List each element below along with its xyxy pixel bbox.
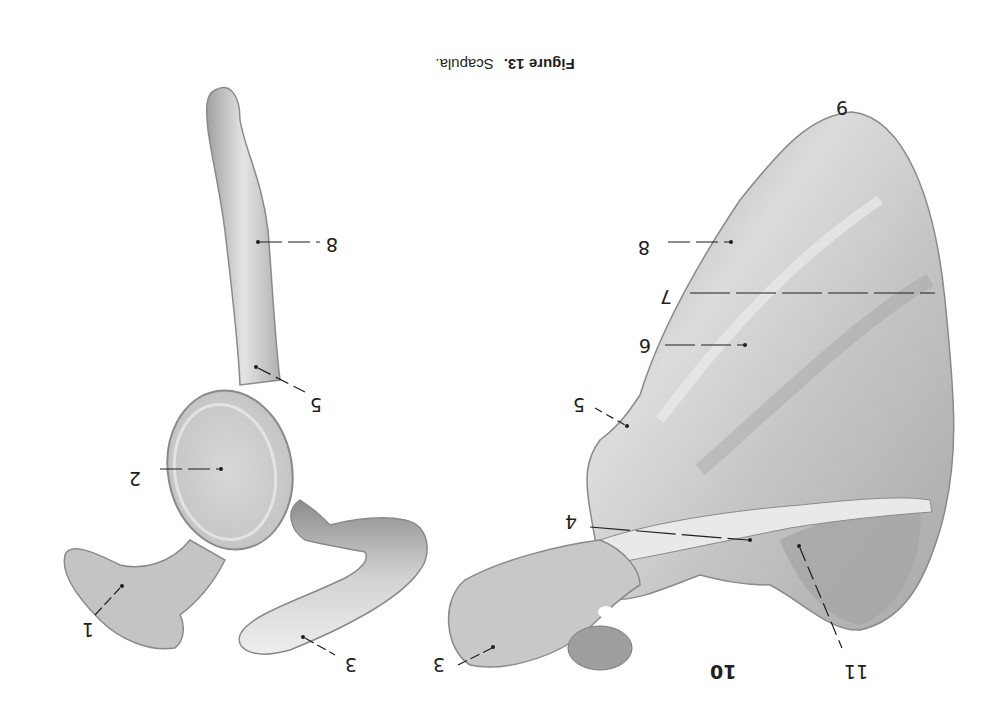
glenoid-cavity [155,380,305,559]
label-left-2: 2 [129,469,141,488]
figure-number: Figure 13. [504,56,575,73]
lateral-border [207,88,280,385]
scapula-illustration [0,0,1007,724]
label-left-1: 1 [82,620,94,639]
label-right-7: 7 [660,287,672,306]
figure-title: Scapula. [435,56,493,73]
label-right-4: 4 [565,512,577,531]
label-right-11: 11 [844,662,868,681]
label-left-5: 5 [310,395,322,414]
label-right-8: 8 [638,238,650,257]
label-right-6: 6 [639,336,651,355]
label-right-9: 9 [836,98,848,117]
label-right-10: 10 [710,662,736,681]
label-right-3: 3 [433,655,445,674]
scapula-lateral-view [64,88,427,654]
coracoid-process [568,626,632,670]
label-right-5: 5 [573,395,585,414]
label-left-3: 3 [345,655,357,674]
figure-stage: Figure 13.Scapula. 9 8 7 6 5 4 3 10 11 8… [0,0,1007,724]
scapula-posterior-view [449,112,954,670]
figure-caption: Figure 13.Scapula. [380,56,630,73]
label-left-8: 8 [326,235,338,254]
notch-hole [598,606,614,618]
